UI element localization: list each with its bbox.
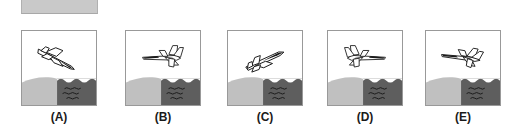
- water-body: [161, 79, 200, 105]
- option-label-b: (B): [125, 110, 201, 124]
- answer-option-c[interactable]: (C): [227, 30, 303, 124]
- answer-options-row: (A): [21, 30, 501, 131]
- option-label-c: (C): [227, 110, 303, 124]
- water-body: [363, 79, 402, 105]
- option-label-a: (A): [21, 110, 97, 124]
- land-hill: [228, 77, 263, 105]
- scene-illustration-a: [22, 31, 96, 105]
- scene-illustration-c: [228, 31, 302, 105]
- scene-panel-a[interactable]: [21, 30, 97, 106]
- water-body: [263, 79, 302, 105]
- option-label-e: (E): [425, 110, 501, 124]
- answer-option-d[interactable]: (D): [327, 30, 403, 124]
- answer-option-e[interactable]: (E): [425, 30, 501, 124]
- water-body: [57, 79, 96, 105]
- scene-panel-e[interactable]: [425, 30, 501, 106]
- scene-panel-b[interactable]: [125, 30, 201, 106]
- land-hill: [328, 77, 363, 105]
- scene-illustration-e: [426, 31, 500, 105]
- land-hill: [426, 77, 461, 105]
- ventral-fin: [169, 58, 175, 67]
- option-label-d: (D): [327, 110, 403, 124]
- gray-banner: [21, 0, 98, 14]
- scene-panel-d[interactable]: [327, 30, 403, 106]
- scene-illustration-d: [328, 31, 402, 105]
- land-hill: [22, 77, 57, 105]
- scene-illustration-b: [126, 31, 200, 105]
- answer-option-a[interactable]: (A): [21, 30, 97, 124]
- answer-option-b[interactable]: (B): [125, 30, 201, 124]
- scene-panel-c[interactable]: [227, 30, 303, 106]
- ventral-fin: [353, 58, 359, 67]
- land-hill: [126, 77, 161, 105]
- water-body: [461, 79, 500, 105]
